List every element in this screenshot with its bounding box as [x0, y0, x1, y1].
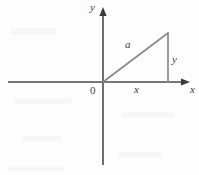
y-axis-label: y [90, 2, 95, 13]
diagram-svg [0, 0, 199, 175]
hypotenuse-length-label: a [125, 39, 131, 50]
horizontal-leg-length-label: x [134, 84, 139, 95]
vertical-leg-length-label: y [172, 54, 177, 65]
origin-label: 0 [90, 85, 96, 96]
triangle-hypotenuse [103, 33, 168, 82]
triangle-group [103, 33, 168, 82]
x-axis-label: x [190, 84, 195, 95]
axes-group [8, 7, 190, 165]
figure-canvas: y x 0 a y x [0, 0, 199, 175]
y-axis-arrowhead [99, 7, 106, 16]
x-axis-arrowhead [181, 78, 190, 85]
